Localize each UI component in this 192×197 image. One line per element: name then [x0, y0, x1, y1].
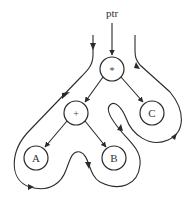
node-plus-label: +	[73, 108, 79, 119]
traversal-arrow-icon	[90, 43, 96, 50]
edge-root-c	[121, 77, 143, 102]
node-c-label: C	[148, 107, 155, 119]
edge-plus-b	[85, 121, 106, 147]
node-a-label: A	[32, 152, 40, 164]
expression-tree-traversal-diagram: ptr * + C A B	[0, 0, 192, 197]
traversal-arrow-icon	[28, 184, 34, 190]
node-b-label: B	[110, 152, 117, 164]
edge-root-plus	[85, 77, 103, 102]
traversal-arrow-icon	[171, 133, 177, 140]
node-plus: +	[64, 101, 88, 125]
traversal-arrow-icon	[62, 92, 70, 99]
node-a: A	[24, 146, 48, 170]
node-root: *	[100, 57, 124, 81]
ptr-label: ptr	[106, 7, 119, 19]
node-c: C	[140, 101, 164, 125]
node-b: B	[102, 146, 126, 170]
node-root-label: *	[110, 65, 115, 76]
edge-plus-a	[45, 121, 67, 147]
